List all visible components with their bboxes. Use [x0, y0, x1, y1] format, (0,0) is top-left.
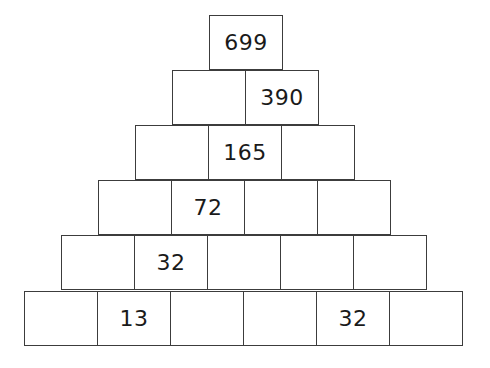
pyramid-cell-r4c4[interactable]	[317, 180, 391, 235]
pyramid-row-2: 390	[172, 70, 319, 125]
pyramid-cell-r4c2[interactable]: 72	[171, 180, 245, 235]
pyramid-cell-r4c1[interactable]	[98, 180, 172, 235]
pyramid-cell-r6c2[interactable]: 13	[97, 291, 171, 346]
number-pyramid-figure: 699 390 165 72 32 13 32	[0, 0, 490, 368]
pyramid-cell-r2c2[interactable]: 390	[245, 70, 319, 125]
pyramid-cell-r3c1[interactable]	[135, 125, 209, 180]
pyramid-cell-r6c1[interactable]	[24, 291, 98, 346]
pyramid-row-3: 165	[135, 125, 355, 180]
pyramid-cell-r6c3[interactable]	[170, 291, 244, 346]
pyramid-cell-r6c5[interactable]: 32	[316, 291, 390, 346]
pyramid-cell-r5c2[interactable]: 32	[134, 235, 208, 290]
pyramid-row-4: 72	[98, 180, 391, 235]
pyramid-cell-r6c6[interactable]	[389, 291, 463, 346]
pyramid-cell-r5c5[interactable]	[353, 235, 427, 290]
pyramid-row-5: 32	[61, 235, 427, 290]
pyramid-cell-r5c3[interactable]	[207, 235, 281, 290]
pyramid-cell-r5c4[interactable]	[280, 235, 354, 290]
pyramid-cell-r6c4[interactable]	[243, 291, 317, 346]
pyramid-cell-r3c2[interactable]: 165	[208, 125, 282, 180]
pyramid-cell-r2c1[interactable]	[172, 70, 246, 125]
pyramid-row-6: 13 32	[24, 291, 463, 346]
pyramid-cell-r3c3[interactable]	[281, 125, 355, 180]
pyramid-cell-r5c1[interactable]	[61, 235, 135, 290]
pyramid-cell-r4c3[interactable]	[244, 180, 318, 235]
pyramid-row-1: 699	[209, 15, 283, 70]
pyramid-cell-r1c1[interactable]: 699	[209, 15, 283, 70]
